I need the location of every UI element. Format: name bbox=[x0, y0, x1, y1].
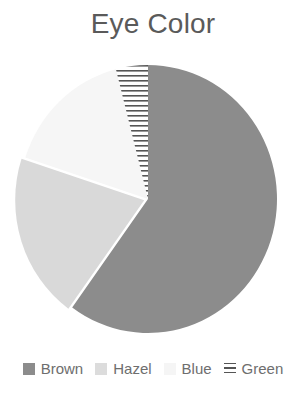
legend-item-blue[interactable]: Blue bbox=[164, 360, 212, 377]
legend-label: Brown bbox=[41, 360, 84, 377]
legend-label: Hazel bbox=[113, 360, 151, 377]
legend-item-green[interactable]: Green bbox=[224, 360, 284, 377]
legend-item-brown[interactable]: Brown bbox=[23, 360, 84, 377]
brown-swatch-icon bbox=[23, 363, 35, 375]
hazel-swatch-icon bbox=[95, 363, 107, 375]
legend-item-hazel[interactable]: Hazel bbox=[95, 360, 151, 377]
green-hatch-swatch-icon bbox=[224, 363, 236, 374]
legend-label: Blue bbox=[182, 360, 212, 377]
chart-legend: Brown Hazel Blue Green bbox=[0, 360, 306, 377]
legend-label: Green bbox=[242, 360, 284, 377]
blue-swatch-icon bbox=[164, 363, 176, 375]
pie-chart bbox=[0, 0, 306, 397]
